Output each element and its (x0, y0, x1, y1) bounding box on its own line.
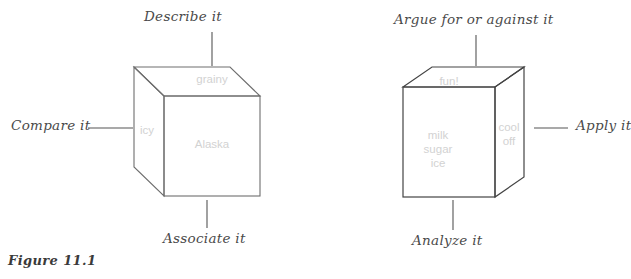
cube-left-side-face-text: icy (131, 123, 163, 137)
label-analyze-it: Analyze it (412, 232, 483, 248)
cube-right-front-face-text-line-3: ice (410, 156, 466, 170)
cube-right-front-face-text-line-2: sugar (410, 142, 466, 156)
cube-left-top-face-text: grainy (177, 72, 247, 86)
figure-container: Describe it Compare it Associate it grai… (0, 0, 631, 279)
label-apply-it: Apply it (576, 117, 631, 133)
label-argue-for-or-against-it: Argue for or against it (394, 11, 554, 27)
figure-caption: Figure 11.1 (8, 253, 96, 268)
cube-right-front-face-text-line-1: milk (410, 128, 466, 142)
cube-right-side-face-text-line-1: cool (493, 120, 525, 134)
cube-diagram-svg (0, 0, 631, 279)
cube-right-side-face-text-line-2: off (493, 134, 525, 148)
label-describe-it: Describe it (144, 8, 222, 24)
cube-right-top-face-text: fun! (424, 74, 474, 88)
label-compare-it: Compare it (11, 117, 90, 133)
cube-left-front-face-text: Alaska (178, 137, 246, 151)
label-associate-it: Associate it (163, 230, 246, 246)
